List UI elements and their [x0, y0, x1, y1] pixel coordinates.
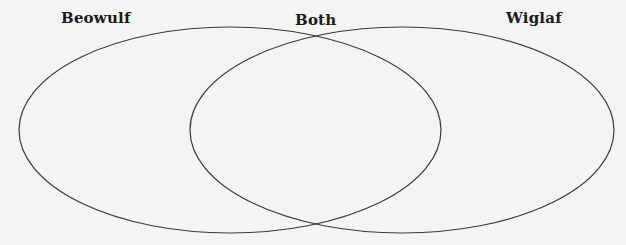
- beowulf-circle: [19, 27, 441, 233]
- wiglaf-label: Wiglaf: [506, 11, 562, 26]
- wiglaf-circle: [190, 27, 614, 233]
- venn-diagram-page: Beowulf Both Wiglaf: [0, 0, 626, 245]
- venn-diagram: [0, 0, 626, 245]
- beowulf-label: Beowulf: [61, 11, 131, 26]
- both-label: Both: [295, 13, 336, 28]
